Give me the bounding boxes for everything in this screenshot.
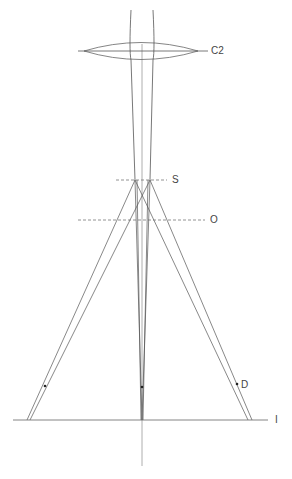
condenser-lens <box>78 43 208 60</box>
ray-bundle <box>27 180 252 420</box>
label-c2: C2 <box>211 46 224 56</box>
label-d: D <box>241 380 248 390</box>
label-i: I <box>275 415 278 425</box>
focus-dot-center <box>141 386 144 389</box>
label-s: S <box>172 175 179 185</box>
focus-dot-d <box>236 383 239 386</box>
focus-dot-left <box>44 385 47 388</box>
optics-diagram: C2 S O D I <box>0 0 292 479</box>
label-o: O <box>210 215 218 225</box>
ray-diagram-svg <box>0 0 292 479</box>
